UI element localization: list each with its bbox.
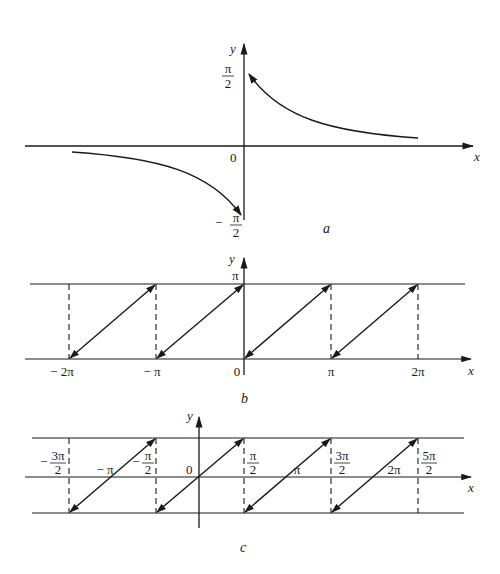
svg-text:2: 2 (55, 462, 62, 477)
svg-text:π: π (233, 210, 240, 225)
svg-text:π: π (225, 61, 232, 76)
svg-text:2: 2 (339, 462, 346, 477)
tick-neg-pi-over-2: − π 2 (215, 210, 242, 240)
y-tick-pi: π (232, 268, 239, 283)
tick-pi-over-2: π 2 (247, 448, 259, 477)
figure: y x 0 π 2 − π 2 a (0, 0, 500, 574)
svg-text:2: 2 (145, 462, 152, 477)
x-tick-neg-pi: − π (96, 462, 114, 477)
panel-a: y x 0 π 2 − π 2 a (25, 41, 480, 240)
svg-text:2: 2 (250, 462, 257, 477)
x-axis-label: x (467, 480, 474, 495)
svg-text:−: − (40, 454, 47, 469)
svg-text:−: − (215, 215, 222, 230)
panel-label-c: c (240, 540, 247, 555)
lower-branch-curve (72, 152, 241, 215)
x-tick-neg-pi: − π (143, 364, 161, 379)
origin-label: 0 (186, 462, 193, 477)
svg-text:π: π (250, 448, 257, 463)
svg-text:2: 2 (233, 225, 240, 240)
x-tick-pi: π (328, 364, 335, 379)
y-axis-label: y (185, 408, 193, 423)
x-tick-pi: π (294, 462, 301, 477)
x-tick-2pi: 2π (387, 462, 401, 477)
y-axis-label: y (228, 41, 236, 56)
upper-branch-curve (249, 74, 418, 138)
y-axis-label: y (227, 251, 235, 266)
panel-c: y x 0 − 3π 2 − π 2 π 2 3π 2 5π 2 (25, 408, 474, 555)
tick-neg-pi-over-2: − π 2 (132, 448, 154, 477)
panel-label-b: b (241, 391, 248, 406)
svg-text:2: 2 (426, 462, 433, 477)
svg-text:π: π (145, 448, 152, 463)
tick-3pi-over-2: 3π 2 (334, 448, 350, 477)
panel-label-a: a (323, 221, 330, 236)
x-tick-2pi: 2π (411, 364, 425, 379)
x-axis-label: x (473, 149, 480, 164)
svg-text:3π: 3π (335, 448, 349, 463)
svg-text:3π: 3π (51, 448, 65, 463)
tick-pi-over-2: π 2 (222, 61, 234, 91)
origin-label: 0 (230, 150, 237, 165)
x-tick-neg-2pi: − 2π (50, 364, 74, 379)
svg-text:−: − (132, 454, 139, 469)
x-axis-label: x (467, 363, 474, 378)
dashed-verticals (69, 438, 418, 513)
tick-neg-3pi-over-2: − 3π 2 (40, 448, 66, 477)
svg-text:5π: 5π (422, 448, 436, 463)
tick-5pi-over-2: 5π 2 (421, 448, 437, 477)
svg-text:2: 2 (225, 76, 232, 91)
x-tick-zero: 0 (234, 364, 241, 379)
panel-b: y π x − 2π − π 0 π 2π b (25, 251, 474, 406)
